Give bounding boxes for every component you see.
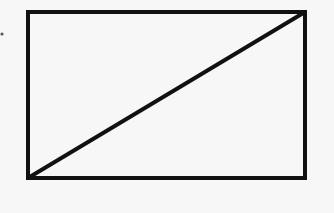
- diagonal-line: [28, 12, 305, 178]
- stray-dot: [0, 32, 3, 35]
- diagram-canvas: [0, 0, 334, 213]
- rectangle-diagram: [0, 0, 334, 213]
